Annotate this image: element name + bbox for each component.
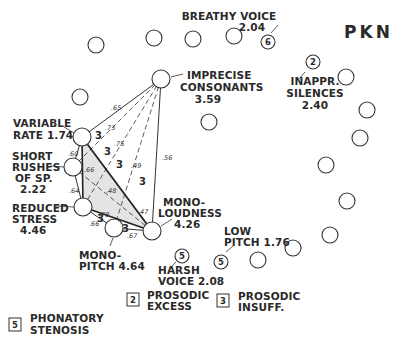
svg-text:3: 3 [220,296,226,306]
cluster-mark: 3 [95,130,102,141]
empty-node [339,193,355,209]
legend-prosodic-excess: 2 PROSODIC EXCESS [127,289,210,312]
link-line [82,79,161,137]
cluster-mark: 3 [104,146,111,157]
svg-text:EXCESS: EXCESS [147,300,192,312]
label-variable: VARIABLE [13,117,71,129]
label-imprecise: IMPRECISE [187,69,252,81]
empty-node [359,102,375,118]
value-imprecise: 3.59 [195,93,221,105]
corr-value: .66 [84,166,94,174]
value-short: 2.22 [20,183,46,195]
empty-node [185,31,201,47]
corr-value: .73 [105,124,115,132]
empty-node [201,114,217,130]
cluster-diagram: 6 2 5 5 PKN BREATHY VOICE 2.04 IMPRECISE… [0,0,395,341]
svg-text:INSUFF.: INSUFF. [238,301,284,313]
label-inappr-2: SILENCES [286,87,343,99]
corr-value: .65 [111,104,121,112]
node-variable-rate [73,128,91,146]
node-reduced-stress [74,198,92,216]
value-inappr: 2.40 [302,99,328,111]
svg-text:STENOSIS: STENOSIS [30,324,89,336]
svg-text:PHONATORY: PHONATORY [30,312,104,324]
empty-node [338,69,354,85]
legend-phonatory-stenosis: 5 PHONATORY STENOSIS [9,312,104,336]
cluster-mark: 3 [122,223,129,234]
badge-inappr: 2 [310,57,316,67]
value-harsh: VOICE 2.08 [158,275,224,287]
corr-value: .48 [106,187,116,195]
node-imprecise-consonants [152,70,170,88]
empty-node [88,37,104,53]
badge-harsh: 5 [179,251,185,261]
empty-node [146,30,162,46]
badge-breathy: 6 [265,37,271,47]
value-variable: RATE 1.74 [13,129,73,141]
page-title: PKN [344,22,393,42]
empty-node [318,157,334,173]
corr-value: .60 [68,150,78,158]
corr-value: .47 [138,208,149,216]
value-breathy: 2.04 [239,21,265,33]
value-monoloud: 4.26 [174,218,200,230]
cluster-mark: 3 [139,176,146,187]
value-reduced: 4.46 [20,224,46,236]
legend-prosodic-insuff: 3 PROSODIC INSUFF. [217,290,301,313]
badge-low-pitch: 5 [218,257,224,267]
corr-value: .75 [114,140,124,148]
node-short-rushes [64,158,82,176]
svg-text:2: 2 [130,295,136,305]
value-lowpitch: PITCH 1.76 [224,236,290,248]
cluster-mark: 3 [116,159,123,170]
empty-node [322,227,338,243]
svg-text:5: 5 [12,320,18,330]
node-mono-loudness [143,222,161,240]
value-monopitch: PITCH 4.64 [79,260,145,272]
link-line [82,137,83,207]
empty-node [250,252,266,268]
corr-value: .64 [69,187,79,195]
label-imprecise-2: CONSONANTS [180,81,263,93]
corr-value: .49 [131,162,141,170]
empty-node [352,130,368,146]
label-inappr: INAPPR. [290,75,339,87]
empty-node [72,89,88,105]
corr-value: .56 [162,154,172,162]
